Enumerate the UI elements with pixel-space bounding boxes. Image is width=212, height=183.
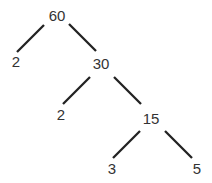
node-3: 3 [108, 160, 116, 177]
edge-30-to-15 [114, 77, 141, 104]
node-2-left: 2 [12, 53, 20, 70]
edge-60-to-30 [69, 24, 96, 51]
node-60: 60 [49, 7, 66, 24]
node-30: 30 [93, 55, 110, 72]
node-15: 15 [143, 110, 160, 127]
factor-tree-diagram: 60 2 30 2 15 3 5 [0, 0, 212, 183]
edge-15-to-3 [113, 131, 140, 158]
edge-30-to-2 [63, 77, 90, 104]
node-2-middle: 2 [57, 106, 65, 123]
node-5: 5 [193, 160, 201, 177]
edge-15-to-5 [165, 131, 192, 158]
edge-60-to-2 [17, 25, 44, 52]
